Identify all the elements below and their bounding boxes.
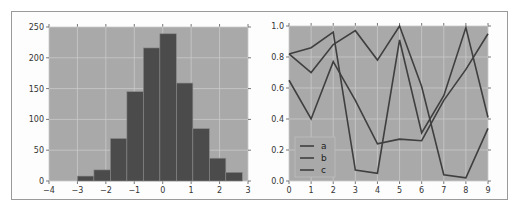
histogram-bar <box>77 176 93 181</box>
histogram-bar <box>209 158 225 181</box>
y-tick-label: 1.0 <box>271 22 284 31</box>
x-tick-label: 0 <box>160 186 165 195</box>
histogram-axes: −4−3−2−10123050100150200250 <box>29 23 251 195</box>
histogram-bar <box>226 172 242 181</box>
histogram-bar <box>176 83 192 181</box>
legend: abc <box>295 137 335 177</box>
histogram-bar <box>143 48 159 181</box>
line-chart-axes: 01234567890.00.20.40.60.81.0abc <box>271 22 491 195</box>
y-tick-label: 0 <box>39 177 44 186</box>
y-tick-label: 150 <box>29 85 44 94</box>
y-tick-label: 250 <box>29 23 44 32</box>
x-tick-label: 2 <box>217 186 222 195</box>
x-tick-label: 3 <box>353 186 358 195</box>
y-tick-label: 50 <box>34 146 44 155</box>
x-tick-label: 2 <box>331 186 336 195</box>
x-tick-label: 4 <box>375 186 380 195</box>
histogram-bar <box>127 92 143 181</box>
legend-label-a: a <box>321 141 327 151</box>
x-tick-label: 8 <box>463 186 468 195</box>
y-tick-label: 0.4 <box>271 115 284 124</box>
x-tick-label: 0 <box>286 186 291 195</box>
x-tick-label: 9 <box>485 186 490 195</box>
y-tick-label: 0.8 <box>271 53 284 62</box>
histogram-bar <box>94 170 110 181</box>
x-tick-label: 6 <box>419 186 424 195</box>
x-tick-label: 1 <box>189 186 194 195</box>
x-tick-label: 1 <box>309 186 314 195</box>
histogram-bar <box>193 129 209 181</box>
figure: −4−3−2−1012305010015020025001234567890.0… <box>0 0 519 212</box>
y-tick-label: 200 <box>29 54 44 63</box>
legend-box <box>295 137 335 177</box>
histogram-bar <box>160 34 176 181</box>
y-tick-label: 0.0 <box>271 177 284 186</box>
x-tick-label: −1 <box>128 186 140 195</box>
x-tick-label: −2 <box>100 186 112 195</box>
x-tick-label: −4 <box>43 186 55 195</box>
y-tick-label: 0.2 <box>271 146 284 155</box>
x-tick-label: 3 <box>245 186 250 195</box>
legend-label-c: c <box>321 165 326 175</box>
histogram-bar <box>110 138 126 181</box>
x-tick-label: 7 <box>441 186 446 195</box>
y-tick-label: 0.6 <box>271 84 284 93</box>
y-tick-label: 100 <box>29 115 44 124</box>
x-tick-label: −3 <box>72 186 84 195</box>
x-tick-label: 5 <box>397 186 402 195</box>
legend-label-b: b <box>321 153 327 163</box>
